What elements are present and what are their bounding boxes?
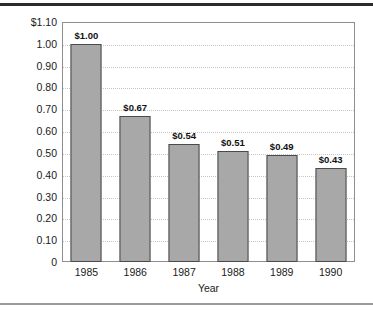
bar-value-label: $0.54 <box>172 131 196 141</box>
bar-value-label: $0.43 <box>319 155 343 165</box>
y-tick-label: 0.30 <box>0 192 57 202</box>
bar-group: $0.54 <box>160 22 209 262</box>
bars-layer: $1.00$0.67$0.54$0.51$0.49$0.43 <box>62 22 355 262</box>
y-tick-label: 1.00 <box>0 39 57 49</box>
x-axis: 198519861987198819891990 <box>62 266 355 280</box>
y-tick-label: 0.20 <box>0 213 57 223</box>
bar-group: $0.67 <box>111 22 160 262</box>
bar[interactable] <box>315 168 346 262</box>
y-axis: $1.101.000.900.800.700.600.500.400.300.2… <box>0 22 57 262</box>
bar[interactable] <box>266 155 297 262</box>
y-tick-label: 0 <box>0 257 57 267</box>
x-tick-label: 1985 <box>75 266 98 278</box>
bottom-divider-rule <box>0 303 373 305</box>
y-tick-label: 0.70 <box>0 104 57 114</box>
bar-value-label: $0.67 <box>123 103 147 113</box>
y-tick-label: 0.90 <box>0 61 57 71</box>
y-tick-label: 0.50 <box>0 148 57 158</box>
y-tick-label: 0.60 <box>0 126 57 136</box>
bar-group: $0.51 <box>209 22 258 262</box>
bar-group: $0.43 <box>306 22 355 262</box>
x-tick-label: 1986 <box>124 266 147 278</box>
bar[interactable] <box>120 116 151 262</box>
x-axis-title: Year <box>62 282 355 294</box>
bar[interactable] <box>217 151 248 262</box>
bar-value-label: $1.00 <box>75 31 99 41</box>
y-tick-label: $1.10 <box>0 17 57 27</box>
bar-group: $0.49 <box>257 22 306 262</box>
x-tick-label: 1990 <box>319 266 342 278</box>
y-tick-label: 0.40 <box>0 170 57 180</box>
x-tick-label: 1989 <box>270 266 293 278</box>
x-tick-label: 1987 <box>172 266 195 278</box>
y-tick-label: 0.80 <box>0 82 57 92</box>
top-divider-rule <box>0 3 373 6</box>
bar-chart-figure: $1.101.000.900.800.700.600.500.400.300.2… <box>0 0 373 313</box>
y-tick-label: 0.10 <box>0 235 57 245</box>
bar[interactable] <box>71 44 102 262</box>
bar-value-label: $0.51 <box>221 138 245 148</box>
bar-value-label: $0.49 <box>270 142 294 152</box>
bar-group: $1.00 <box>62 22 111 262</box>
bar[interactable] <box>169 144 200 262</box>
x-tick-label: 1988 <box>221 266 244 278</box>
